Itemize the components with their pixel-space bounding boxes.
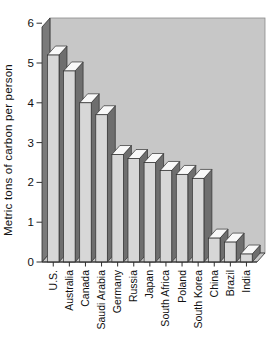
- y-tick-label: 1: [28, 216, 34, 228]
- bar-chart-figure: 0123456U.S.AustraliaCanadaSaudi ArabiaGe…: [0, 0, 274, 349]
- bar-front-face: [64, 71, 76, 262]
- y-tick-label: 0: [28, 256, 34, 268]
- x-category-label: South Africa: [159, 270, 171, 327]
- x-category-label: Canada: [79, 270, 91, 307]
- x-category-label: Japan: [143, 270, 155, 299]
- x-category-label: China: [208, 270, 220, 298]
- x-category-label: Germany: [111, 269, 123, 313]
- bar-front-face: [225, 242, 237, 262]
- bar-front-face: [96, 115, 108, 262]
- bar-front-face: [144, 163, 156, 263]
- bar-front-face: [112, 155, 124, 262]
- bar-front-face: [176, 174, 188, 262]
- x-category-label: Russia: [127, 270, 139, 302]
- bar-chart: 0123456U.S.AustraliaCanadaSaudi ArabiaGe…: [0, 0, 274, 349]
- x-category-label: Saudi Arabia: [95, 270, 107, 330]
- x-category-label: Poland: [176, 270, 188, 303]
- bar-front-face: [192, 178, 204, 262]
- y-tick-label: 3: [28, 137, 34, 149]
- bar-front-face: [80, 103, 92, 262]
- bar-front-face: [160, 170, 172, 262]
- bar-front-face: [48, 55, 60, 262]
- x-category-label: Brazil: [224, 270, 236, 296]
- x-category-label: South Korea: [192, 270, 204, 329]
- y-tick-label: 6: [28, 17, 34, 29]
- y-tick-label: 5: [28, 57, 34, 69]
- x-category-label: India: [240, 270, 252, 293]
- x-category-label: Australia: [63, 270, 75, 311]
- bar-front-face: [209, 238, 221, 262]
- y-tick-label: 4: [28, 97, 35, 109]
- bar-front-face: [128, 159, 140, 262]
- x-category-label: U.S.: [47, 270, 59, 290]
- y-tick-label: 2: [28, 176, 34, 188]
- bar-front-face: [241, 254, 253, 262]
- y-axis-title: Metric tons of carbon per person: [2, 64, 14, 236]
